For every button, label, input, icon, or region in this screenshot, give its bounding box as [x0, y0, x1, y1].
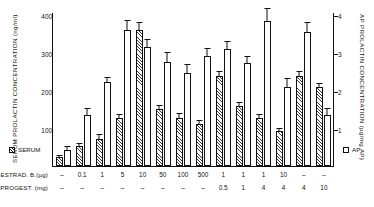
ap-error-bar	[187, 64, 188, 74]
bar-group	[293, 13, 313, 166]
progest-dose-cell: –	[92, 184, 112, 191]
ap-error-bar	[87, 108, 88, 115]
row-estradiol-label: ESTRAD. B.(µg)	[0, 171, 52, 178]
estradiol-dose-cell: 1	[253, 171, 273, 178]
serum-bar	[176, 118, 183, 166]
serum-bar	[116, 118, 123, 166]
ap-bar	[284, 87, 291, 166]
estradiol-dose-cell: 50	[153, 171, 173, 178]
serum-error-bar	[259, 114, 260, 119]
serum-bar	[316, 87, 323, 166]
estradiol-dose-cell: –	[52, 171, 72, 178]
serum-error-bar	[219, 71, 220, 77]
bar-group	[113, 13, 133, 166]
serum-error-bar	[59, 155, 60, 158]
serum-error-bar	[139, 22, 140, 31]
serum-error-bar	[319, 83, 320, 88]
ap-bar	[104, 82, 111, 166]
ap-bar	[264, 21, 271, 166]
progest-dose-cell: –	[52, 184, 72, 191]
ap-bar	[84, 115, 91, 166]
progest-dose-cell: 10	[314, 184, 334, 191]
serum-bar	[296, 76, 303, 166]
plot-area	[52, 13, 334, 167]
row-progest: PROGEST. (mg) ––––––––0.5144410	[0, 181, 374, 194]
estradiol-dose-cell: 100	[173, 171, 193, 178]
ap-bar	[204, 56, 211, 166]
row-estradiol-values: –0.115105010050011110––	[52, 171, 334, 178]
bar-group	[273, 13, 293, 166]
hatched-square-icon	[9, 147, 15, 153]
progest-dose-cell: –	[153, 184, 173, 191]
serum-error-bar	[179, 113, 180, 119]
serum-error-bar	[279, 128, 280, 132]
right-tick-2: 2	[338, 89, 364, 96]
bar-group	[253, 13, 273, 166]
ap-bar	[244, 63, 251, 166]
progest-dose-cell: 0.5	[213, 184, 233, 191]
estradiol-dose-cell: 1	[233, 171, 253, 178]
ap-error-bar	[67, 146, 68, 150]
progest-dose-cell: 4	[253, 184, 273, 191]
ap-error-bar	[227, 41, 228, 50]
row-progest-label: PROGEST. (mg)	[0, 184, 52, 191]
progest-dose-cell: –	[133, 184, 153, 191]
legend-ap-label: AP	[352, 146, 360, 153]
serum-bar	[216, 76, 223, 166]
bar-group	[213, 13, 233, 166]
ap-bar	[144, 47, 151, 166]
serum-bar	[76, 146, 83, 166]
serum-error-bar	[239, 102, 240, 106]
row-estradiol: ESTRAD. B.(µg) –0.115105010050011110––	[0, 168, 374, 181]
progest-dose-cell: 4	[274, 184, 294, 191]
progest-dose-cell: –	[173, 184, 193, 191]
ap-error-bar	[247, 56, 248, 64]
progest-dose-cell: 1	[233, 184, 253, 191]
bar-group	[193, 13, 213, 166]
legend-ap: AP	[343, 146, 360, 153]
ap-error-bar	[267, 8, 268, 22]
open-square-icon	[343, 147, 349, 153]
ap-bar	[124, 30, 131, 166]
ap-bar	[164, 62, 171, 167]
ap-error-bar	[327, 108, 328, 116]
estradiol-dose-cell: –	[314, 171, 334, 178]
bar-group	[73, 13, 93, 166]
bar-group	[233, 13, 253, 166]
progest-dose-cell: –	[112, 184, 132, 191]
estradiol-dose-cell: 10	[274, 171, 294, 178]
bar-group	[93, 13, 113, 166]
bar-group	[133, 13, 153, 166]
legend-serum-label: SERUM	[18, 146, 40, 153]
ap-bar	[304, 32, 311, 166]
figure-prolactin-bar-chart: SERUM PROLACTIN CONCENTRATION (ng/ml) AP…	[0, 0, 374, 207]
left-tick-300: 300	[26, 51, 52, 58]
estradiol-dose-cell: 500	[193, 171, 213, 178]
ap-error-bar	[207, 48, 208, 57]
estradiol-dose-cell: 1	[213, 171, 233, 178]
ap-error-bar	[147, 39, 148, 48]
ap-error-bar	[167, 52, 168, 62]
serum-bar	[56, 157, 63, 166]
condition-table: ESTRAD. B.(µg) –0.115105010050011110–– P…	[0, 168, 374, 194]
ap-error-bar	[307, 22, 308, 33]
estradiol-dose-cell: 0.1	[72, 171, 92, 178]
progest-dose-cell: –	[193, 184, 213, 191]
ap-error-bar	[127, 20, 128, 31]
ap-bar	[324, 115, 331, 166]
left-tick-400: 400	[26, 13, 52, 20]
bar-group	[173, 13, 193, 166]
progest-dose-cell: –	[72, 184, 92, 191]
right-tick-4: 4	[338, 13, 364, 20]
right-axis-title: AP PROLACTIN CONCENTRATION (µg/mg AP)	[359, 14, 366, 160]
estradiol-dose-cell: 1	[92, 171, 112, 178]
ap-error-bar	[107, 77, 108, 83]
serum-bar	[276, 131, 283, 166]
serum-error-bar	[99, 134, 100, 139]
bar-group	[53, 13, 73, 166]
estradiol-dose-cell: 5	[112, 171, 132, 178]
legend-serum: SERUM	[9, 146, 40, 153]
estradiol-dose-cell: 10	[133, 171, 153, 178]
bar-groups	[53, 13, 333, 166]
serum-bar	[196, 124, 203, 166]
